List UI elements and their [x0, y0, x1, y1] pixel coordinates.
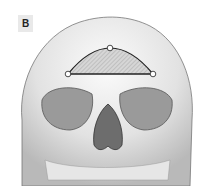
point-apex	[107, 45, 113, 51]
point-right	[150, 71, 156, 77]
skull-illustration	[0, 0, 202, 186]
point-left	[65, 71, 71, 77]
